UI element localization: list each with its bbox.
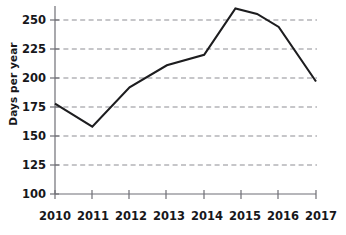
gridlines — [55, 20, 317, 165]
y-tick-label: 200 — [14, 73, 46, 85]
plot-area — [52, 6, 317, 202]
x-tick-label: 2017 — [298, 211, 344, 223]
axes — [55, 6, 316, 194]
data-series-line — [55, 8, 316, 126]
y-axis-tick-labels: 250 225 200 175 150 125 100 — [12, 0, 46, 235]
y-tick-label: 100 — [14, 189, 46, 201]
plot-svg — [52, 6, 317, 202]
y-tick-label: 250 — [14, 15, 46, 27]
y-tick-label: 150 — [14, 131, 46, 143]
line-chart: Days per year 250 225 200 175 150 125 10… — [0, 0, 346, 235]
y-tick-label: 175 — [14, 102, 46, 114]
y-tick-label: 125 — [14, 160, 46, 172]
y-tick-label: 225 — [14, 44, 46, 56]
